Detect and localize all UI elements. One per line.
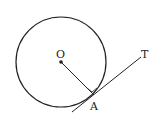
label-O: O [56,48,65,61]
label-A: A [89,100,99,113]
tangent-line [72,57,141,112]
label-T: T [141,48,149,61]
diagram-canvas: O A T [0,0,161,124]
